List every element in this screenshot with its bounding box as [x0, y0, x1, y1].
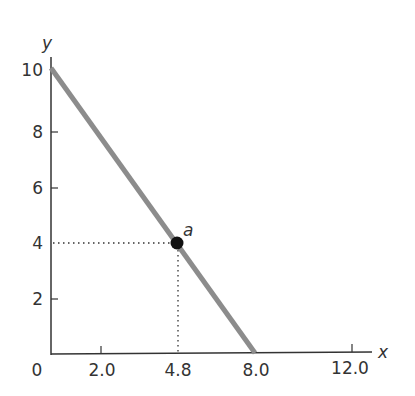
x-tick-label: 2.0 — [88, 360, 115, 380]
chart: a y x 2 4 6 8 10 0 2.0 4.8 8.0 12.0 — [0, 0, 415, 396]
y-axis-title: y — [41, 33, 53, 53]
x-tick-label: 12.0 — [331, 358, 369, 378]
x-tick-label: 4.8 — [164, 360, 191, 380]
x-tick-label: 8.0 — [242, 360, 269, 380]
y-tick-label: 2 — [32, 289, 43, 309]
x-axis-title: x — [377, 342, 389, 362]
point-a-marker — [171, 237, 184, 250]
y-tick-label: 6 — [32, 178, 43, 198]
y-tick-label: 4 — [32, 233, 43, 253]
series-line — [51, 68, 255, 353]
x-axis — [51, 352, 372, 354]
point-a-label: a — [183, 220, 193, 240]
y-tick-label: 10 — [21, 60, 43, 80]
origin-label: 0 — [32, 360, 43, 380]
y-tick-label: 8 — [32, 122, 43, 142]
